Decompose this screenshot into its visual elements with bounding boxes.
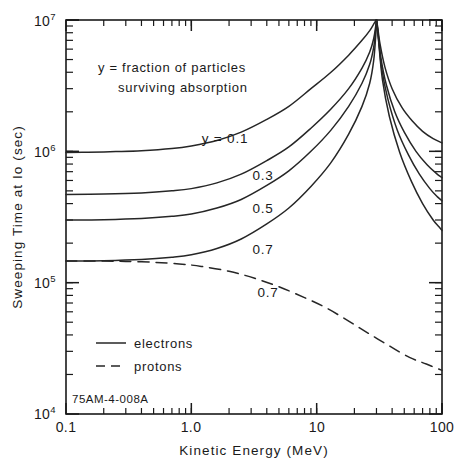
- annotation-line-1: y = fraction of particles: [98, 60, 246, 75]
- x-tick-label-2: 10: [309, 419, 325, 435]
- y-tick-label-1e4: 104: [34, 404, 56, 422]
- legend: electrons protons: [96, 336, 193, 374]
- y-axis-tick-labels: 107 106 105 104: [34, 11, 56, 422]
- curve-label-y03: 0.3: [252, 168, 273, 183]
- y-tick-label-1e7: 107: [34, 11, 56, 29]
- curve-label-y07-protons: 0.7: [257, 285, 278, 300]
- sweeping-time-chart: 107 106 105 104 0.1 1.0 10 100 Kinetic E…: [0, 0, 471, 466]
- y-tick-label-1e6: 106: [34, 142, 56, 160]
- curve-y-0-5-electrons: [66, 20, 376, 220]
- curve-label-y07-electrons: 0.7: [252, 242, 273, 257]
- x-axis-tick-labels: 0.1 1.0 10 100: [56, 419, 455, 435]
- curve-label-y05: 0.5: [252, 201, 273, 216]
- curve-y-0-7-protons: [66, 261, 442, 370]
- curve-y-0-1-electrons-upper-branch-: [376, 20, 442, 143]
- y-axis-title: Sweeping Time at Io (sec): [10, 125, 25, 309]
- figure-id-label: 75AM-4-008A: [72, 393, 148, 405]
- curve-y-0-5-electrons-upper-branch-: [376, 20, 442, 201]
- curve-label-y01: y = 0.1: [202, 131, 249, 146]
- y-tick-label-1e5: 105: [34, 273, 56, 291]
- curve-y-0-7-electrons-upper-branch-: [376, 20, 442, 230]
- x-axis-title: Kinetic Energy (MeV): [179, 443, 329, 458]
- legend-label-protons: protons: [134, 359, 182, 374]
- x-tick-label-1: 1.0: [181, 419, 202, 435]
- annotation-line-2: surviving absorption: [118, 80, 248, 95]
- x-tick-label-0: 0.1: [56, 419, 77, 435]
- x-tick-label-3: 100: [430, 419, 455, 435]
- legend-label-electrons: electrons: [134, 336, 193, 351]
- figure-container: 107 106 105 104 0.1 1.0 10 100 Kinetic E…: [0, 0, 471, 466]
- curve-y-0-3-electrons: [66, 20, 376, 194]
